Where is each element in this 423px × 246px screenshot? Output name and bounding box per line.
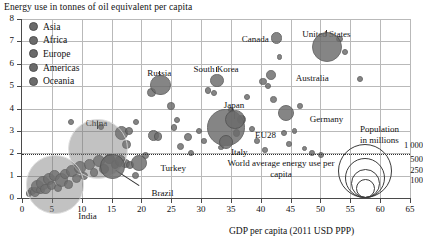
bubble-turkey <box>131 155 147 171</box>
x-tick <box>350 198 351 203</box>
x-tick-label: 40 <box>251 204 271 214</box>
legend-label: Oceania <box>43 76 74 86</box>
chart-title: Energy use in tonnes of oil equivalent p… <box>4 2 192 12</box>
population-value-label: 250 <box>389 165 423 175</box>
population-circle-100 <box>356 179 375 198</box>
legend-label: Asia <box>43 22 60 32</box>
legend-item-africa[interactable]: Africa <box>29 34 79 48</box>
x-tick <box>320 198 321 203</box>
x-axis-title: GDP per capita (2011 USD PPP) <box>229 226 354 236</box>
data-bubble <box>342 49 348 55</box>
y-tick <box>17 131 22 132</box>
legend-dot-icon <box>29 22 38 31</box>
x-tick <box>141 198 142 203</box>
data-bubble <box>297 103 303 109</box>
y-tick-label: 6 <box>0 58 14 68</box>
data-bubble <box>133 119 139 125</box>
data-bubble <box>125 127 133 135</box>
bubble-japan <box>225 110 245 130</box>
x-tick-label: 60 <box>370 204 390 214</box>
data-bubble <box>171 124 177 130</box>
y-tick <box>17 41 22 42</box>
gridline-horizontal <box>22 41 410 42</box>
x-tick <box>231 198 232 203</box>
x-tick-label: 15 <box>102 204 122 214</box>
y-tick <box>17 109 22 110</box>
x-tick-label: 25 <box>161 204 181 214</box>
population-size-legend: Population in millions 1 000500250100 <box>337 124 422 198</box>
bubble-russia <box>150 75 171 96</box>
population-value-label: 1 000 <box>389 140 423 150</box>
x-tick <box>410 198 411 203</box>
legend-dot-icon <box>29 49 38 58</box>
population-value-label: 100 <box>389 175 423 185</box>
data-bubble <box>154 132 162 140</box>
x-tick-label: 65 <box>400 204 420 214</box>
legend-dot-icon <box>29 63 38 72</box>
country-label-india: India <box>78 211 97 221</box>
x-tick <box>201 198 202 203</box>
y-tick-label: 4 <box>0 103 14 113</box>
country-label-canada: Canada <box>242 34 269 44</box>
y-tick-label: 5 <box>0 80 14 90</box>
x-tick-label: 45 <box>281 204 301 214</box>
x-tick-label: 30 <box>191 204 211 214</box>
data-bubble <box>201 138 207 144</box>
data-bubble <box>68 119 74 125</box>
y-tick-label: 2 <box>0 147 14 157</box>
country-label-eu28: EU28 <box>255 130 276 140</box>
data-bubble <box>184 133 192 141</box>
legend-item-asia[interactable]: Asia <box>29 20 79 34</box>
data-bubble <box>286 141 292 147</box>
data-bubble <box>174 117 180 123</box>
country-label-australia: Australia <box>296 73 329 83</box>
bubble-canada <box>271 32 282 43</box>
legend-label: Europe <box>43 49 70 59</box>
y-tick-label: 1 <box>0 170 14 180</box>
legend-item-oceania[interactable]: Oceania <box>29 74 79 88</box>
legend-dot-icon <box>29 36 38 45</box>
data-bubble <box>132 172 139 179</box>
data-bubble <box>262 147 268 153</box>
x-tick <box>291 198 292 203</box>
data-bubble <box>177 143 184 150</box>
bubble-germany <box>278 105 294 121</box>
x-tick <box>380 198 381 203</box>
x-tick-label: 35 <box>221 204 241 214</box>
y-tick <box>17 86 22 87</box>
y-tick <box>17 19 22 20</box>
legend-label: Americas <box>43 63 79 73</box>
x-tick <box>82 198 83 203</box>
x-tick <box>171 198 172 203</box>
data-bubble <box>277 54 283 60</box>
population-legend-title-line1: Population <box>360 124 399 134</box>
gridline-horizontal <box>22 19 410 20</box>
legend-item-europe[interactable]: Europe <box>29 47 79 61</box>
country-label-italy: Italy <box>231 147 248 157</box>
leader-line-south-korea <box>216 67 217 72</box>
y-tick <box>17 176 22 177</box>
x-tick-label: 50 <box>310 204 330 214</box>
x-tick <box>22 198 23 203</box>
data-bubble <box>265 83 271 89</box>
bubble-india <box>26 155 84 213</box>
data-bubble <box>270 96 277 103</box>
bubble-australia <box>266 70 276 80</box>
world-average-label: World average energy use per capita <box>216 158 346 180</box>
y-tick-label: 0 <box>0 192 14 202</box>
x-tick <box>261 198 262 203</box>
x-tick-label: 55 <box>340 204 360 214</box>
country-label-turkey: Turkey <box>160 163 186 173</box>
data-bubble <box>281 130 287 136</box>
legend-item-americas[interactable]: Americas <box>29 61 79 75</box>
legend-label: Africa <box>43 35 67 45</box>
bubble-brazil <box>100 154 124 178</box>
bubble-south-korea <box>210 74 223 87</box>
population-value-label: 500 <box>389 154 423 164</box>
x-tick-label: 0 <box>12 204 32 214</box>
country-label-germany: Germany <box>310 114 344 124</box>
region-legend: AsiaAfricaEuropeAmericasOceania <box>29 20 79 88</box>
legend-dot-icon <box>29 77 38 86</box>
data-bubble <box>167 102 175 110</box>
